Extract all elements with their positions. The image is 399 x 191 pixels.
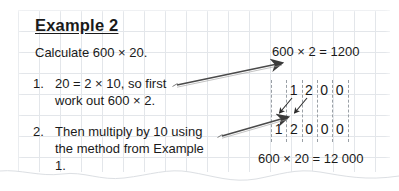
paper-top-fade bbox=[0, 0, 399, 13]
calculation-instruction: Calculate 600 × 20. bbox=[35, 45, 147, 60]
step-1-number: 1. bbox=[33, 75, 51, 92]
step-1-text: 20 = 2 × 10, so first work out 600 × 2. bbox=[55, 75, 183, 109]
pv-bottom-digit-1: 1 bbox=[271, 121, 286, 137]
place-value-row-top: 1 2 0 0 bbox=[286, 82, 347, 98]
pv-top-digit-4: 0 bbox=[332, 82, 347, 98]
place-value-row-bottom: 1 2 0 0 0 bbox=[271, 121, 347, 137]
worksheet-screenshot: Example 2 Calculate 600 × 20. 1. 20 = 2 … bbox=[0, 0, 399, 191]
place-value-chart: 1 2 0 0 1 2 0 0 0 bbox=[271, 80, 363, 142]
pv-top-digit-2: 2 bbox=[301, 82, 316, 98]
pv-top-digit-3: 0 bbox=[317, 82, 332, 98]
pv-bottom-digit-3: 0 bbox=[302, 121, 317, 137]
column-line-6 bbox=[348, 80, 349, 142]
paper-left-fade bbox=[0, 0, 22, 191]
pv-bottom-digit-2: 2 bbox=[286, 121, 301, 137]
step-1: 1. 20 = 2 × 10, so first work out 600 × … bbox=[33, 75, 183, 109]
page-title: Example 2 bbox=[35, 16, 118, 35]
pv-top-digit-1: 1 bbox=[286, 82, 301, 98]
pv-bottom-digit-4: 0 bbox=[317, 121, 332, 137]
paper-right-fade bbox=[385, 0, 399, 191]
step-2-text: Then multiply by 10 using the method fro… bbox=[55, 123, 208, 174]
step-2-number: 2. bbox=[33, 123, 51, 140]
equation-600-times-2: 600 × 2 = 1200 bbox=[272, 44, 359, 59]
pv-bottom-digit-5: 0 bbox=[332, 121, 347, 137]
step-2: 2. Then multiply by 10 using the method … bbox=[33, 123, 208, 174]
equation-600-times-20: 600 × 20 = 12 000 bbox=[258, 151, 364, 166]
